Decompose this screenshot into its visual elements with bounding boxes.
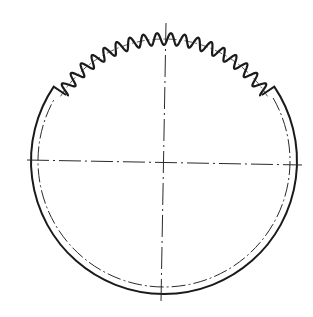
gear-drawing (0, 0, 313, 317)
background (0, 0, 313, 317)
